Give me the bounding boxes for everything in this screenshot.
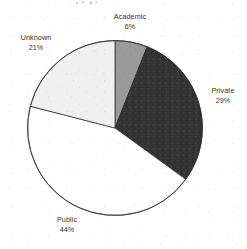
slice-label-public-value: 44% xyxy=(41,225,93,235)
slice-label-academic-name: Academic xyxy=(92,12,168,22)
slice-label-unknown-name: Unknown xyxy=(2,33,70,43)
slice-label-public-name: Public xyxy=(41,215,93,225)
slice-label-academic-value: 6% xyxy=(92,22,168,32)
slice-label-private: Private 29% xyxy=(199,86,247,105)
scan-artifact xyxy=(74,0,100,6)
slice-label-public: Public 44% xyxy=(41,215,93,234)
slice-label-academic: Academic 6% xyxy=(92,12,168,31)
slice-label-private-name: Private xyxy=(199,86,247,96)
slice-label-unknown-value: 21% xyxy=(2,43,70,53)
slice-label-private-value: 29% xyxy=(199,96,247,106)
pie-graphic xyxy=(27,40,203,216)
pie-chart-figure: Academic 6% Private 29% Public 44% Unkno… xyxy=(0,0,247,249)
slice-label-unknown: Unknown 21% xyxy=(2,33,70,52)
